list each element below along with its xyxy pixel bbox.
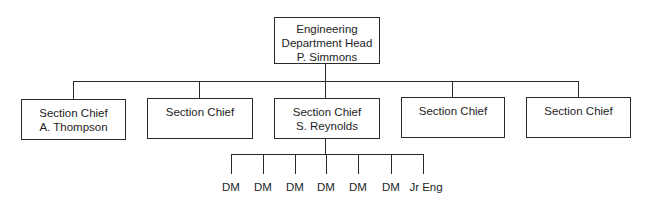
report-label-7: Jr Eng — [409, 181, 442, 193]
section-chief-box-1: Section Chief A. Thompson — [21, 99, 126, 140]
report-label-3: DM — [286, 181, 304, 193]
section-name: A. Thompson — [39, 120, 107, 134]
report-4-drop — [326, 154, 327, 174]
section-title: Section Chief — [544, 104, 612, 118]
report-5-drop — [358, 154, 359, 174]
section-title: Section Chief — [293, 105, 361, 119]
section-name: S. Reynolds — [296, 119, 358, 133]
head-drop-line — [325, 63, 326, 81]
department-head-box: Engineering Department Head P. Simmons — [274, 17, 380, 64]
report-7-drop — [423, 154, 424, 174]
section-chief-box-4: Section Chief — [401, 97, 505, 138]
head-name: P. Simmons — [297, 50, 358, 64]
report-label-2: DM — [254, 181, 272, 193]
report-1-drop — [231, 154, 232, 174]
report-2-drop — [263, 154, 264, 174]
section-title: Section Chief — [419, 104, 487, 118]
section-2-drop — [199, 81, 200, 98]
report-label-5: DM — [349, 181, 367, 193]
section-chief-box-2: Section Chief — [147, 98, 253, 139]
section-5-drop — [578, 81, 579, 98]
report-label-6: DM — [382, 181, 400, 193]
report-6-drop — [391, 154, 392, 174]
reports-bus-line — [231, 154, 424, 155]
head-title-line1: Engineering — [296, 22, 357, 36]
report-3-drop — [295, 154, 296, 174]
reynolds-drop-line — [325, 138, 326, 154]
section-chief-box-5: Section Chief — [526, 97, 631, 138]
report-label-1: DM — [222, 181, 240, 193]
section-3-drop — [325, 81, 326, 99]
section-4-drop — [452, 81, 453, 98]
head-title-line2: Department Head — [282, 36, 373, 50]
report-label-4: DM — [317, 181, 335, 193]
section-1-drop — [73, 81, 74, 99]
section-title: Section Chief — [39, 106, 107, 120]
section-title: Section Chief — [166, 105, 234, 119]
section-chief-box-3: Section Chief S. Reynolds — [274, 98, 380, 139]
